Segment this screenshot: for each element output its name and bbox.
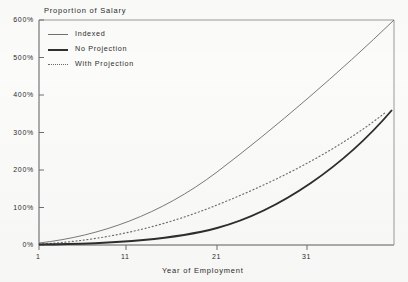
y-tick-label-200: 200% (0, 166, 34, 173)
series-line-with-projection (39, 112, 386, 244)
y-axis-ticks (39, 20, 44, 245)
x-tick-label-1: 1 (36, 253, 41, 260)
legend-item-with-projection: With Projection (48, 59, 134, 68)
y-tick-label-100: 100% (0, 204, 34, 211)
y-tick-label-400: 400% (0, 91, 34, 98)
legend-label-indexed: Indexed (75, 29, 105, 38)
x-tick-label-31: 31 (302, 253, 311, 260)
x-axis-ticks (39, 245, 307, 250)
legend-item-no-projection: No Projection (48, 44, 127, 53)
legend-swatch-dotted-line-icon (48, 60, 68, 67)
chart-figure: Proportion of Salary 600% 500% 400% 300%… (0, 0, 408, 282)
x-tick-label-21: 21 (212, 253, 221, 260)
y-tick-label-300: 300% (0, 129, 34, 136)
legend-item-indexed: Indexed (48, 29, 105, 38)
x-axis-title: Year of Employment (162, 266, 244, 275)
chart-screenshot: Proportion of Salary 600% 500% 400% 300%… (0, 0, 408, 282)
chart-plot-area (0, 0, 408, 282)
y-axis-title: Proportion of Salary (44, 6, 126, 15)
legend-label-no-projection: No Projection (75, 44, 127, 53)
y-tick-label-600: 600% (0, 16, 34, 23)
y-tick-label-0: 0% (0, 241, 34, 248)
series-line-indexed (39, 20, 394, 243)
y-tick-label-500: 500% (0, 54, 34, 61)
series-line-no-projection (39, 110, 392, 245)
x-tick-label-11: 11 (121, 253, 130, 260)
legend-swatch-thin-line-icon (48, 30, 68, 37)
legend-swatch-thick-line-icon (48, 45, 68, 52)
axis-lines (39, 20, 394, 245)
legend-label-with-projection: With Projection (75, 59, 134, 68)
